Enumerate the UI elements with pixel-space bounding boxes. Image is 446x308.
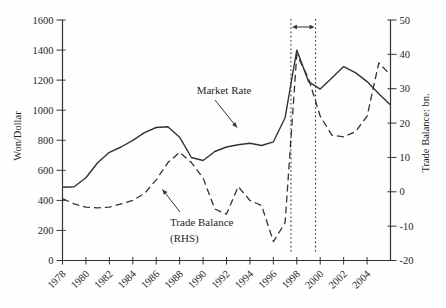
left-axis-tick-label: 1400: [33, 45, 54, 56]
left-axis-tick-label: 1200: [33, 75, 54, 86]
trade-balance-annotation-rhs: (RHS): [170, 232, 199, 245]
x-axis-tick-label: 1996: [256, 268, 279, 291]
left-axis-tick-label: 800: [38, 135, 54, 146]
crisis-band-arrow-right-head: [310, 25, 315, 29]
right-axis-tick-label: 10: [400, 152, 411, 163]
x-axis-tick-label: 1986: [139, 268, 162, 291]
left-axis-tick-label: 1600: [33, 15, 54, 26]
x-axis-tick-label: 1998: [280, 268, 303, 291]
left-axis-tick-label: 0: [48, 255, 53, 266]
right-axis-tick-label: -20: [400, 255, 414, 266]
x-axis-tick-label: 1984: [116, 268, 139, 291]
crisis-band-arrow-left-head: [292, 25, 297, 29]
left-axis-tick-label: 1000: [33, 105, 54, 116]
right-axis-title: Trade Balance: bn.: [420, 93, 431, 172]
trade-balance-annotation-label: Trade Balance: [170, 216, 234, 228]
right-axis-tick-label: 20: [400, 118, 411, 129]
x-axis-tick-label: 2004: [350, 268, 373, 291]
market-rate-annotation-label: Market Rate: [197, 84, 252, 96]
right-axis-tick-label: 0: [400, 186, 405, 197]
won-dollar-trade-balance-figure: 02004006008001000120014001600-20-1001020…: [0, 0, 446, 308]
left-axis-tick-label: 600: [38, 165, 54, 176]
right-axis-tick-label: 50: [400, 15, 411, 26]
market-rate-annotation-arrow-line: [215, 100, 237, 128]
x-axis-tick-label: 1992: [209, 268, 232, 291]
x-axis-tick-label: 1990: [186, 268, 209, 291]
left-axis-tick-label: 200: [38, 225, 54, 236]
x-axis-tick-label: 1994: [233, 268, 256, 291]
left-axis-tick-label: 400: [38, 195, 54, 206]
x-axis-tick-label: 1982: [92, 268, 115, 291]
chart-canvas: 02004006008001000120014001600-20-1001020…: [0, 0, 446, 308]
x-axis-tick-label: 1988: [162, 268, 185, 291]
right-axis-tick-label: 30: [400, 83, 411, 94]
right-axis-tick-label: 40: [400, 49, 411, 60]
x-axis-tick-label: 2000: [303, 268, 326, 291]
chart-render-layer: 02004006008001000120014001600-20-1001020…: [33, 15, 414, 291]
x-axis-tick-label: 1980: [69, 268, 92, 291]
series-market-rate: [63, 50, 391, 187]
x-axis-tick-label: 2002: [326, 268, 349, 291]
series-trade-balance: [63, 54, 391, 241]
right-axis-tick-label: -10: [400, 221, 414, 232]
x-axis-tick-label: 1978: [45, 268, 68, 291]
left-axis-title: Won/Dollar: [12, 111, 23, 161]
